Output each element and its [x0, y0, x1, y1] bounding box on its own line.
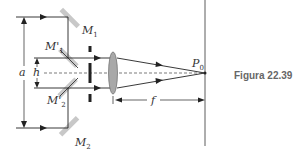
focal-point-p0	[204, 72, 207, 75]
label-f: f	[150, 94, 157, 107]
label-m2-prime: M'2	[46, 94, 66, 109]
label-m2: M2	[74, 136, 91, 151]
label-m1: M1	[81, 24, 98, 39]
dimension-f	[113, 96, 205, 104]
slit-screen	[89, 46, 92, 102]
figure-caption: Figura 22.39	[234, 70, 293, 81]
mirror-m2	[59, 116, 80, 137]
mirror-m1	[60, 8, 81, 29]
lens	[109, 52, 118, 94]
label-m1-prime: M'1	[44, 40, 64, 55]
label-h: h	[33, 66, 40, 79]
label-p0: P0	[191, 57, 204, 72]
interferometer-diagram: a h f M1 M'1 M'2 M2 P0 Figura 22.39	[0, 0, 307, 151]
label-a: a	[19, 66, 26, 79]
